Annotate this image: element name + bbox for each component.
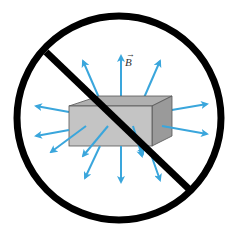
monopole-diagram	[0, 0, 230, 233]
field-label: → B	[125, 56, 132, 68]
prohibition-sign	[17, 16, 221, 220]
